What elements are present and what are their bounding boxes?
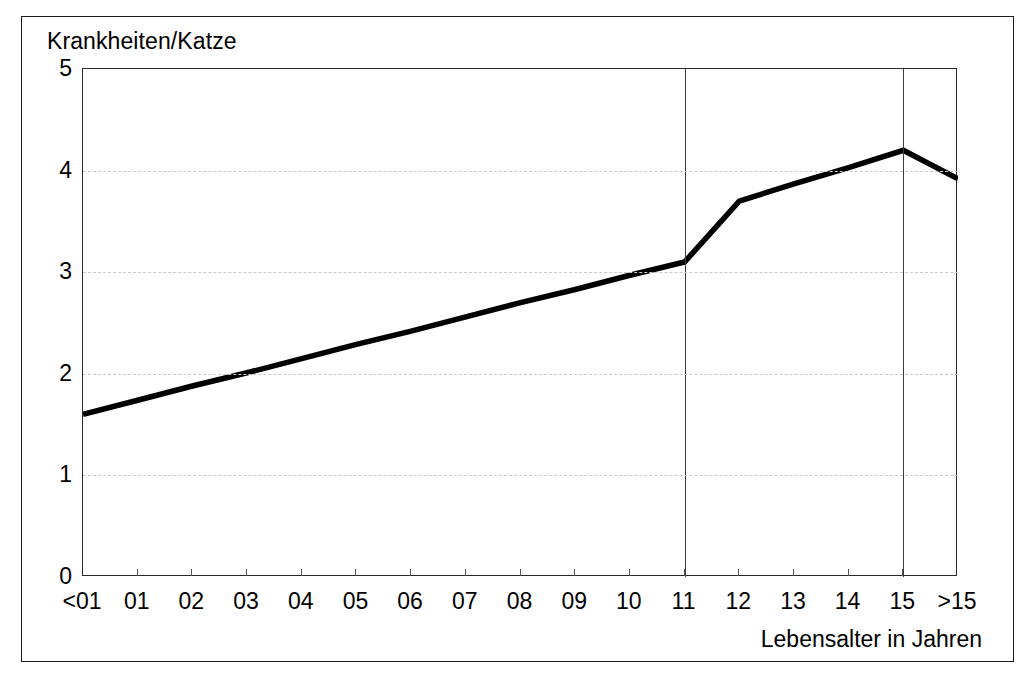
x-tickmark-15 [902,569,903,576]
x-tick-label-06: 06 [397,588,423,614]
vertical-divider-15 [903,69,904,577]
gridline-y-4 [83,171,958,172]
chart-figure: Krankheiten/Katze 012345 <01010203040506… [0,0,1028,677]
plot-area [82,68,957,576]
x-tick-label-13: 13 [780,588,806,614]
x-tickmark-10 [629,569,630,576]
x-tick-label-lt01: <01 [62,588,101,614]
x-axis-tickmarks [82,569,957,576]
x-tick-label-11: 11 [672,588,696,614]
y-tick-label-2: 2 [38,362,72,385]
x-tickmark-08 [520,569,521,576]
y-tick-label-5: 5 [38,57,72,80]
x-tick-label-03: 03 [233,588,259,614]
x-tick-label-10: 10 [616,588,642,614]
y-tick-label-3: 3 [38,260,72,283]
gridline-y-1 [83,475,958,476]
gridline-y-2 [83,374,958,375]
x-tickmark-02 [191,569,192,576]
x-tick-label-07: 07 [452,588,478,614]
x-tickmark-09 [574,569,575,576]
x-tick-label-14: 14 [835,588,861,614]
x-tick-label-gt15: >15 [937,588,976,614]
x-tickmark-12 [738,569,739,576]
line-series-krankheiten-katze [83,69,958,577]
x-tickmark-05 [355,569,356,576]
x-tick-label-09: 09 [561,588,587,614]
y-tick-label-1: 1 [38,463,72,486]
x-tickmark-03 [246,569,247,576]
y-axis-tick-labels: 012345 [28,68,72,576]
y-tick-label-4: 4 [38,159,72,182]
y-tick-label-0: 0 [38,565,72,588]
x-tickmark-04 [301,569,302,576]
x-tick-label-12: 12 [725,588,751,614]
x-tick-label-02: 02 [179,588,205,614]
x-axis-title: Lebensalter in Jahren [0,626,1000,652]
x-tickmark-13 [793,569,794,576]
x-tick-label-05: 05 [343,588,369,614]
y-axis-title: Krankheiten/Katze [47,28,237,54]
plot-inner [83,69,958,577]
x-tickmark-14 [848,569,849,576]
x-tick-label-04: 04 [288,588,314,614]
x-tick-label-01: 01 [124,588,150,614]
x-tick-label-08: 08 [507,588,533,614]
vertical-divider-11 [685,69,686,577]
x-tickmark-01 [137,569,138,576]
x-tickmark-07 [465,569,466,576]
x-tickmark-11 [684,569,685,576]
gridline-y-3 [83,272,958,273]
x-tick-label-15: 15 [890,588,916,614]
x-axis-tick-labels: <01010203040506070809101112131415>15 [82,588,957,618]
x-tickmark-06 [410,569,411,576]
